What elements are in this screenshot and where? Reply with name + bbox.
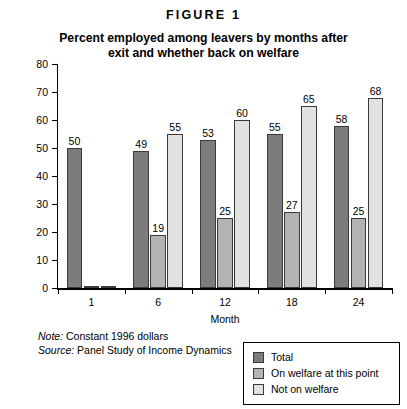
bar-total-month-1	[67, 148, 83, 288]
bar-value-label: 58	[322, 113, 362, 125]
note-line: Note: Constant 1996 dollars	[38, 330, 232, 344]
source-text: Panel Study of Income Dynamics	[74, 344, 232, 356]
source-line: Source: Panel Study of Income Dynamics	[38, 344, 232, 358]
note-text: Constant 1996 dollars	[63, 330, 168, 342]
y-axis-tick-label: 80	[8, 59, 48, 69]
chart-title: Percent employed among leavers by months…	[0, 31, 407, 61]
legend-swatch-icon	[253, 384, 264, 395]
x-axis-tick-label: 1	[61, 296, 121, 308]
bar-value-label: 65	[289, 93, 329, 105]
x-axis-tick	[392, 289, 393, 294]
chart-legend: TotalOn welfare at this pointNot on welf…	[243, 342, 400, 405]
bar-value-label: 50	[55, 135, 95, 147]
x-axis-tick	[58, 289, 59, 294]
bar-not-on-welfare-month-6	[167, 134, 183, 288]
bar-on-welfare-at-this-point-month-24	[351, 218, 367, 288]
y-axis-tick	[52, 260, 57, 261]
y-axis-tick-label: 40	[8, 171, 48, 181]
x-axis-title: Month	[58, 313, 392, 325]
bar-total-month-6	[133, 151, 149, 288]
x-axis-tick-label: 6	[128, 296, 188, 308]
legend-item: On welfare at this point	[253, 365, 392, 381]
legend-label: Not on welfare	[271, 383, 339, 395]
bar-value-label: 49	[121, 138, 161, 150]
y-axis-tick	[52, 120, 57, 121]
y-axis-tick	[52, 232, 57, 233]
x-axis-tick	[192, 289, 193, 294]
bar-value-label: 60	[222, 107, 262, 119]
bar-on-welfare-at-this-point-month-6	[150, 235, 166, 288]
figure-label: FIGURE 1	[0, 8, 407, 22]
bar-not-on-welfare-month-24	[368, 98, 384, 288]
bar-value-label: 55	[255, 121, 295, 133]
bar-not-on-welfare-month-1	[101, 286, 117, 288]
bar-on-welfare-at-this-point-month-18	[284, 212, 300, 288]
chart-title-line-2: exit and whether back on welfare	[0, 46, 407, 61]
bar-not-on-welfare-month-18	[301, 106, 317, 288]
figure-notes: Note: Constant 1996 dollars Source: Pane…	[38, 330, 232, 357]
legend-label: On welfare at this point	[271, 367, 378, 379]
legend-item: Total	[253, 349, 392, 365]
x-axis-tick	[258, 289, 259, 294]
x-axis-line	[57, 288, 393, 290]
x-axis-tick-label: 18	[262, 296, 322, 308]
plot-area: 50491955532560552765582568	[58, 64, 392, 288]
bar-on-welfare-at-this-point-month-12	[217, 218, 233, 288]
y-axis-tick	[52, 204, 57, 205]
y-axis-tick-label: 20	[8, 227, 48, 237]
bar-value-label: 68	[356, 85, 396, 97]
y-axis-tick-label: 70	[8, 87, 48, 97]
x-axis-tick	[125, 289, 126, 294]
y-axis-tick-label: 30	[8, 199, 48, 209]
chart-title-line-1: Percent employed among leavers by months…	[0, 31, 407, 46]
y-axis-tick	[52, 176, 57, 177]
y-axis-tick-label: 60	[8, 115, 48, 125]
y-axis-tick	[52, 288, 57, 289]
legend-label: Total	[271, 351, 293, 363]
source-label: Source:	[38, 344, 74, 356]
note-label: Note:	[38, 330, 63, 342]
y-axis-tick	[52, 148, 57, 149]
y-axis-tick-label: 10	[8, 255, 48, 265]
bar-value-label: 53	[188, 127, 228, 139]
legend-item: Not on welfare	[253, 381, 392, 397]
x-axis-tick-label: 24	[329, 296, 389, 308]
bar-not-on-welfare-month-12	[234, 120, 250, 288]
x-axis-tick	[325, 289, 326, 294]
legend-swatch-icon	[253, 368, 264, 379]
y-axis-tick	[52, 64, 57, 65]
legend-swatch-icon	[253, 352, 264, 363]
x-axis-tick-label: 12	[195, 296, 255, 308]
y-axis-tick-label: 50	[8, 143, 48, 153]
bar-on-welfare-at-this-point-month-1	[84, 286, 100, 288]
y-axis-tick-label: 0	[8, 283, 48, 293]
y-axis-tick	[52, 92, 57, 93]
